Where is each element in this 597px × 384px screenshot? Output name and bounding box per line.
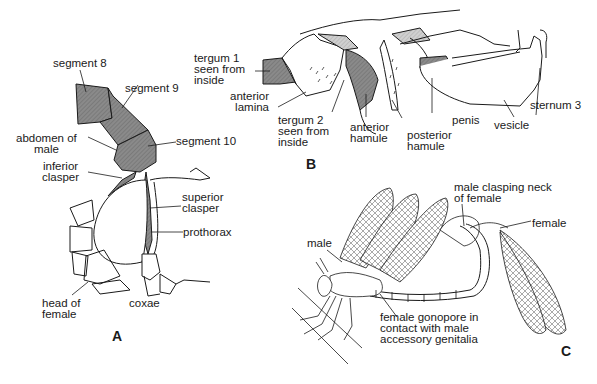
label-superior-clasper: superior clasper — [182, 192, 224, 214]
label-anterior-hamule: anterior hamule — [350, 122, 389, 144]
panel-label-c: C — [561, 343, 571, 359]
label-vesicle: vesicle — [494, 120, 529, 131]
label-male-clasping-neck: male clasping neck of female — [454, 182, 552, 204]
label-prothorax: prothorax — [183, 227, 232, 238]
label-coxae: coxae — [129, 298, 160, 309]
label-tergum-2: tergum 2 seen from inside — [278, 115, 329, 148]
label-segment-9: segment 9 — [125, 83, 179, 94]
label-segment-10: segment 10 — [176, 136, 236, 147]
label-head-of-female: head of female — [42, 298, 80, 320]
label-female-gonopore: female gonopore in contact with male acc… — [380, 312, 478, 345]
panel-label-b: B — [306, 156, 316, 172]
label-abdomen-of-male: abdomen of male — [16, 133, 77, 155]
label-segment-8: segment 8 — [53, 58, 107, 69]
label-posterior-hamule: posterior hamule — [407, 130, 452, 152]
panel-a-drawing — [70, 84, 210, 296]
label-inferior-clasper: inferior clasper — [42, 161, 79, 183]
label-male: male — [307, 238, 332, 249]
label-tergum-1: tergum 1 seen from inside — [194, 53, 245, 86]
label-female: female — [532, 218, 567, 229]
label-anterior-lamina: anterior lamina — [230, 91, 269, 113]
label-sternum-3: sternum 3 — [530, 100, 581, 111]
label-penis: penis — [452, 115, 480, 126]
panel-label-a: A — [112, 328, 122, 344]
